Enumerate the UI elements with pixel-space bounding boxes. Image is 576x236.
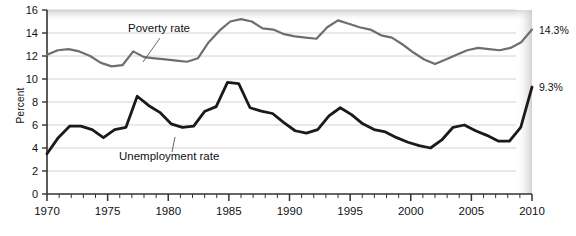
y-axis-ticks: 0246810121416 — [26, 4, 47, 200]
svg-text:6: 6 — [32, 119, 38, 131]
svg-text:1985: 1985 — [216, 205, 242, 217]
svg-text:10: 10 — [26, 73, 38, 85]
svg-text:2: 2 — [32, 165, 38, 177]
svg-text:9.3%: 9.3% — [539, 81, 563, 93]
svg-text:1975: 1975 — [95, 205, 121, 217]
svg-text:12: 12 — [26, 50, 38, 62]
svg-text:4: 4 — [32, 142, 38, 154]
svg-text:16: 16 — [26, 4, 38, 16]
svg-text:14.3%: 14.3% — [539, 24, 569, 36]
svg-text:1970: 1970 — [34, 205, 60, 217]
svg-text:8: 8 — [32, 96, 38, 108]
svg-text:2010: 2010 — [519, 205, 545, 217]
svg-text:14: 14 — [26, 27, 38, 39]
svg-text:1995: 1995 — [337, 205, 363, 217]
svg-text:0: 0 — [32, 188, 38, 200]
svg-text:2000: 2000 — [398, 205, 424, 217]
endpoint-labels: 14.3%9.3% — [539, 24, 569, 94]
svg-text:1980: 1980 — [155, 205, 181, 217]
poverty-unemployment-chart: Percent 0246810121416 197019751980198519… — [0, 0, 576, 236]
svg-text:2005: 2005 — [459, 205, 485, 217]
x-axis-ticks: 197019751980198519901995200020052010 — [34, 194, 545, 217]
svg-text:Unemployment rate: Unemployment rate — [119, 150, 219, 162]
svg-text:1990: 1990 — [277, 205, 303, 217]
chart-svg: 0246810121416 19701975198019851990199520… — [0, 0, 576, 236]
svg-text:Poverty rate: Poverty rate — [128, 22, 190, 34]
